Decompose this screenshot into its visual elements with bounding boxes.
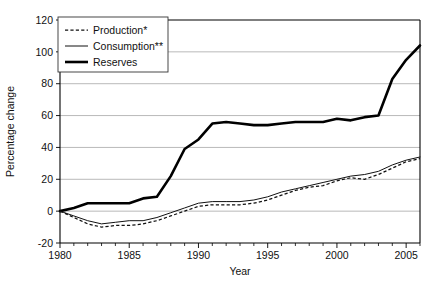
percentage-change-line-chart: -20020406080100120 198019851990199520002… xyxy=(0,0,437,289)
series-line-production xyxy=(60,159,420,227)
x-axis-title: Year xyxy=(229,265,251,277)
y-tick-label-40: 40 xyxy=(41,141,53,153)
y-tick-label-120: 120 xyxy=(35,14,53,26)
x-tick-label-1995: 1995 xyxy=(256,249,280,261)
chart-legend: Production*Consumption**Reserves xyxy=(58,17,168,72)
x-tick-label-1985: 1985 xyxy=(118,249,142,261)
legend-label-0: Production* xyxy=(93,24,147,36)
gridlines-group xyxy=(60,52,420,211)
x-tick-label-2005: 2005 xyxy=(394,249,418,261)
x-tick-label-1990: 1990 xyxy=(187,249,211,261)
chart-container: -20020406080100120 198019851990199520002… xyxy=(0,0,437,289)
series-line-consumption xyxy=(60,157,420,224)
y-tick-label-0: 0 xyxy=(47,205,53,217)
x-tick-label-2000: 2000 xyxy=(325,249,349,261)
x-axis-ticks: 198019851990199520002005 xyxy=(48,243,418,261)
legend-label-1: Consumption** xyxy=(93,40,163,52)
y-axis-ticks: -20020406080100120 xyxy=(35,14,60,249)
y-tick-label-20: 20 xyxy=(41,173,53,185)
y-tick-label-60: 60 xyxy=(41,109,53,121)
y-tick-label-100: 100 xyxy=(35,46,53,58)
y-tick-label--20: -20 xyxy=(38,237,53,249)
y-tick-label-80: 80 xyxy=(41,77,53,89)
y-axis-title: Percentage change xyxy=(4,86,16,177)
legend-label-2: Reserves xyxy=(93,56,137,68)
data-series-group xyxy=(60,45,420,227)
x-tick-label-1980: 1980 xyxy=(48,249,72,261)
